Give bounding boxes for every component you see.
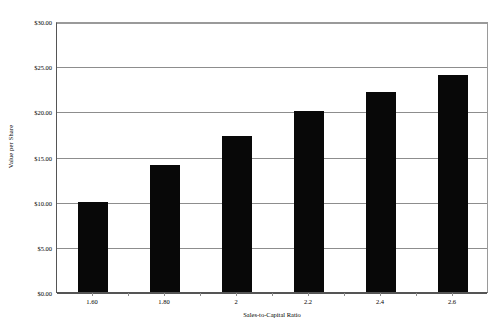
x-axis-tick-label: 1.60 bbox=[62, 297, 122, 306]
bar bbox=[438, 75, 468, 292]
y-axis-tick-label: $0.00 bbox=[16, 290, 52, 297]
x-axis-tick-label: 2.2 bbox=[278, 297, 338, 306]
y-axis-tick-label: $10.00 bbox=[16, 199, 52, 206]
x-axis-tick-mark bbox=[344, 293, 345, 296]
x-axis-tick-label: 1.80 bbox=[134, 297, 194, 306]
y-axis-tick-label: $20.00 bbox=[16, 109, 52, 116]
y-axis-tick-labels: $0.00$5.00$10.00$15.00$20.00$25.00$30.00 bbox=[18, 22, 54, 293]
x-axis-title: Sales-to-Capital Ratio bbox=[56, 310, 488, 319]
x-axis-tick-label: 2.6 bbox=[422, 297, 482, 306]
y-axis-tick-label: $5.00 bbox=[16, 244, 52, 251]
y-axis-title-label: Value per Share bbox=[8, 125, 15, 168]
x-axis-tick-mark bbox=[452, 293, 453, 296]
bar bbox=[294, 111, 324, 292]
x-axis-tick-mark bbox=[272, 293, 273, 296]
x-axis-tick-mark bbox=[308, 293, 309, 296]
bar bbox=[222, 136, 252, 292]
x-axis-tick-mark bbox=[416, 293, 417, 296]
y-axis-tick-label: $30.00 bbox=[16, 19, 52, 26]
x-axis-tick-mark bbox=[236, 293, 237, 296]
bars-group bbox=[57, 23, 487, 292]
x-axis-tick-labels: 1.601.8022.22.42.6 bbox=[56, 297, 488, 309]
x-axis-tick-mark bbox=[380, 293, 381, 296]
x-axis-tick-mark bbox=[200, 293, 201, 296]
bar bbox=[366, 92, 396, 292]
x-axis-tick-mark bbox=[164, 293, 165, 296]
bar-chart: Value per Share $0.00$5.00$10.00$15.00$2… bbox=[0, 0, 503, 330]
bar bbox=[78, 202, 108, 292]
y-axis-tick-label: $15.00 bbox=[16, 154, 52, 161]
plot-area bbox=[56, 22, 488, 293]
x-axis-tick-mark bbox=[92, 293, 93, 296]
x-axis-tick-label: 2.4 bbox=[350, 297, 410, 306]
y-axis-tick-label: $25.00 bbox=[16, 64, 52, 71]
x-axis-tick-label: 2 bbox=[206, 297, 266, 306]
x-axis-tick-mark bbox=[128, 293, 129, 296]
bar bbox=[150, 165, 180, 292]
